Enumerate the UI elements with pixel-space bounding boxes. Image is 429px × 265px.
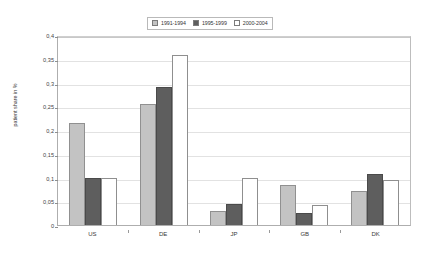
- x-tick-mark: [199, 230, 200, 233]
- y-tick-label: 0,3: [46, 81, 54, 88]
- x-axis-label: GB: [269, 230, 340, 238]
- legend-swatch-icon: [152, 20, 158, 26]
- y-tick-label: 0,4: [46, 33, 54, 40]
- legend-entry-2000-2004: 2000-2004: [234, 20, 268, 26]
- bar: [69, 123, 85, 225]
- bar: [280, 185, 296, 225]
- bar: [172, 55, 188, 225]
- bar: [242, 178, 258, 225]
- bar: [226, 204, 242, 225]
- y-tick-label: 0,05: [43, 199, 54, 206]
- x-axis-labels: USDEJPGBDK: [57, 230, 411, 238]
- y-axis-title: patient share in %: [12, 57, 18, 153]
- x-tick-mark: [128, 230, 129, 233]
- x-axis-label: DK: [340, 230, 411, 238]
- bar: [383, 180, 399, 225]
- bars-container: [58, 37, 410, 225]
- legend-entry-1991-1994: 1991-1994: [152, 20, 186, 26]
- y-tick-label: 0,15: [43, 152, 54, 159]
- bar-chart: 1991-1994 1995-1999 2000-2004 patient sh…: [0, 0, 429, 265]
- bar-group-us: [58, 37, 128, 225]
- x-axis-label: DE: [128, 230, 199, 238]
- y-tick-mark: [55, 227, 58, 228]
- chart-legend: 1991-1994 1995-1999 2000-2004: [147, 17, 273, 30]
- bar-group-de: [128, 37, 198, 225]
- legend-label: 1995-1999: [202, 20, 227, 26]
- x-axis-label: JP: [199, 230, 270, 238]
- bar-group-jp: [199, 37, 269, 225]
- legend-label: 1991-1994: [161, 20, 186, 26]
- bar-group-gb: [269, 37, 339, 225]
- y-tick-label: 0: [51, 223, 54, 230]
- bar: [312, 205, 328, 225]
- bar: [367, 174, 383, 225]
- y-tick-label: 0,1: [46, 176, 54, 183]
- x-tick-mark: [340, 230, 341, 233]
- x-axis-label: US: [57, 230, 128, 238]
- bar: [140, 104, 156, 225]
- plot-area: 00,050,10,150,20,250,30,350,4: [57, 36, 411, 226]
- legend-swatch-icon: [234, 20, 240, 26]
- bar: [156, 87, 172, 225]
- legend-label: 2000-2004: [243, 20, 268, 26]
- bar: [101, 178, 117, 225]
- bar: [296, 213, 312, 225]
- bar: [210, 211, 226, 225]
- y-tick-label: 0,2: [46, 128, 54, 135]
- bar: [351, 191, 367, 225]
- legend-entry-1995-1999: 1995-1999: [193, 20, 227, 26]
- x-tick-mark: [269, 230, 270, 233]
- bar: [85, 178, 101, 226]
- y-tick-label: 0,25: [43, 104, 54, 111]
- legend-swatch-icon: [193, 20, 199, 26]
- bar-group-dk: [340, 37, 410, 225]
- y-tick-label: 0,35: [43, 57, 54, 64]
